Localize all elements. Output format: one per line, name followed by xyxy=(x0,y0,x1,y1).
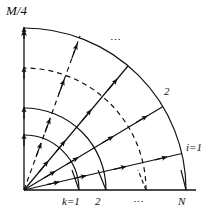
radial-2-arrow-d xyxy=(136,116,147,123)
angular-first-label: k=1 xyxy=(62,196,80,207)
radial-4-dashed-line xyxy=(24,36,80,190)
radial-2-arrow-a xyxy=(44,171,55,178)
radial-index-label: i=1 xyxy=(186,142,202,153)
arc-3-dashed xyxy=(24,68,146,190)
radial-1-arrow-b xyxy=(74,176,86,179)
radial-3-arrow-a xyxy=(39,161,48,172)
radial-1-arrow-d xyxy=(155,157,167,160)
angular-ellipsis-label: ⋯ xyxy=(133,197,145,208)
axis-ticks-group xyxy=(72,170,186,190)
radial-second-label: 2 xyxy=(164,86,170,97)
arcs-group xyxy=(24,28,186,190)
angular-second-label: 2 xyxy=(95,196,101,207)
arc-4-solid-outer xyxy=(24,28,186,190)
radial-1-group xyxy=(24,154,182,191)
radial-4-arrow-a xyxy=(36,143,41,157)
radial-2-arrow-c xyxy=(102,137,113,144)
axes-group xyxy=(24,30,196,190)
radial-3-arrow-c xyxy=(82,110,91,121)
radial-ellipsis-label: ⋯ xyxy=(110,35,122,46)
radial-4-arrow-b xyxy=(45,119,50,133)
radial-2-group xyxy=(24,107,163,191)
radial-4-arrow-d xyxy=(72,44,77,58)
angular-last-label: N xyxy=(178,196,185,207)
arc-2-solid xyxy=(24,108,106,190)
vertical-axis-label: M/4 xyxy=(6,4,27,17)
axis-tick-ellipsis xyxy=(138,170,146,190)
radial-4-arrow-c xyxy=(59,80,64,94)
radial-4-dashed-group xyxy=(24,36,80,190)
radial-1-arrow-c xyxy=(114,167,126,170)
polar-mesh-figure: M/4 i=1 2 k=1 2 ⋯ N ⋯ xyxy=(0,0,208,217)
radial-1-arrow-a xyxy=(47,182,59,185)
radial-3-arrow-d xyxy=(108,79,117,90)
figure-canvas xyxy=(0,0,208,217)
